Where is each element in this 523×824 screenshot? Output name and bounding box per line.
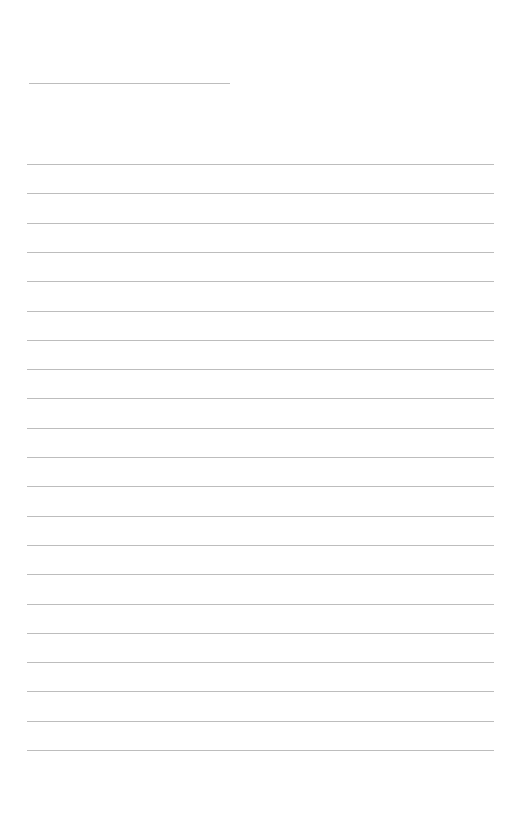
ruled-line bbox=[27, 369, 494, 370]
ruled-line bbox=[27, 604, 494, 605]
ruled-line bbox=[27, 398, 494, 399]
ruled-line bbox=[27, 193, 494, 194]
ruled-line bbox=[27, 340, 494, 341]
ruled-line bbox=[27, 545, 494, 546]
ruled-line bbox=[27, 750, 494, 751]
ruled-line bbox=[27, 662, 494, 663]
ruled-line bbox=[27, 164, 494, 165]
ruled-line bbox=[27, 223, 494, 224]
ruled-line bbox=[27, 428, 494, 429]
header-name-line bbox=[29, 83, 230, 84]
ruled-line bbox=[27, 691, 494, 692]
lined-paper-page bbox=[0, 0, 523, 824]
ruled-line bbox=[27, 311, 494, 312]
ruled-line bbox=[27, 281, 494, 282]
ruled-line bbox=[27, 252, 494, 253]
ruled-line bbox=[27, 486, 494, 487]
ruled-line bbox=[27, 516, 494, 517]
ruled-line bbox=[27, 574, 494, 575]
ruled-line bbox=[27, 633, 494, 634]
ruled-line bbox=[27, 721, 494, 722]
ruled-line bbox=[27, 457, 494, 458]
